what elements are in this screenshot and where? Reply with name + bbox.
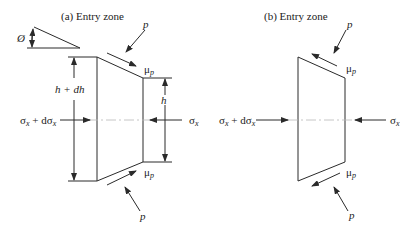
panel-a-title: (a) Entry zone <box>61 10 124 23</box>
pressure-bottom-label: p <box>139 210 146 222</box>
panel-a: (a) Entry zone Ø h + dh h <box>16 10 199 222</box>
friction-bottom-label: μp <box>346 166 356 180</box>
pressure-bottom-arrow-icon <box>125 187 140 211</box>
friction-top-label: μp <box>346 62 356 76</box>
angle-indicator: Ø <box>16 27 80 48</box>
workpiece-element-a <box>97 57 143 181</box>
entry-height-label: h + dh <box>55 83 85 95</box>
left-stress-label: σx + dσx <box>219 114 256 128</box>
pressure-bottom-arrow-icon <box>334 187 348 211</box>
pressure-bottom-label: p <box>348 209 355 221</box>
exit-height-label: h <box>161 94 167 106</box>
friction-top-arrow-icon <box>312 54 337 66</box>
pressure-top-arrow-icon <box>126 30 145 52</box>
pressure-top-label: p <box>346 18 353 30</box>
left-stress-label: σx + dσx <box>20 114 57 128</box>
rolling-entry-zone-diagram: (a) Entry zone Ø h + dh h <box>0 0 417 234</box>
pressure-top-label: p <box>142 18 149 30</box>
right-stress-label: σx <box>390 114 400 128</box>
panel-b-title: (b) Entry zone <box>264 10 328 23</box>
right-stress-label: σx <box>189 114 199 128</box>
friction-bottom-arrow-icon <box>107 171 136 185</box>
panel-b: (b) Entry zone σx + dσx σx p μp μp p <box>219 10 400 221</box>
workpiece-element-b <box>298 57 345 181</box>
entry-height-dimension: h + dh <box>55 57 97 181</box>
pressure-top-arrow-icon <box>334 30 346 53</box>
friction-bottom-label: μp <box>144 166 154 180</box>
friction-bottom-arrow-icon <box>312 173 340 186</box>
friction-top-label: μp <box>144 63 154 77</box>
angle-label: Ø <box>16 32 26 44</box>
